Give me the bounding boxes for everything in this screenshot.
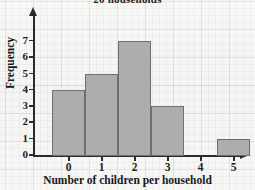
- x-tick-label-1: 1: [94, 162, 110, 174]
- y-tick-label-6: 6: [16, 51, 28, 62]
- bar-children-5: [217, 139, 250, 156]
- x-tick-label-2: 2: [127, 162, 143, 174]
- y-tick-mark: [29, 138, 34, 140]
- y-tick-label-5: 5: [16, 68, 28, 79]
- y-tick-label-0: 0: [16, 149, 28, 160]
- x-tick-label-5: 5: [226, 162, 242, 174]
- y-tick-mark: [29, 121, 34, 123]
- y-tick-mark: [29, 73, 34, 75]
- bar-children-1: [85, 74, 118, 157]
- bar-children-0: [52, 90, 85, 156]
- x-tick-label-4: 4: [193, 162, 209, 174]
- plot-area: 0 1 2 3 4 5 6 7 0 1 2 3 4 5 Frequency: [0, 0, 255, 190]
- y-tick-label-3: 3: [16, 100, 28, 111]
- y-tick-mark: [29, 89, 34, 91]
- bar-children-3: [151, 106, 184, 156]
- y-tick-label-4: 4: [16, 84, 28, 95]
- y-axis-line: [33, 14, 35, 156]
- y-tick-mark: [29, 154, 34, 156]
- y-tick-mark: [29, 56, 34, 58]
- y-tick-mark: [29, 40, 34, 42]
- y-tick-label-1: 1: [16, 133, 28, 144]
- y-axis-title: Frequency: [4, 25, 16, 101]
- x-axis-title: Number of children per household: [0, 174, 255, 186]
- y-tick-label-7: 7: [16, 35, 28, 46]
- x-tick-label-0: 0: [61, 162, 77, 174]
- histogram-screenshot: 20 households 0 1 2 3 4 5 6 7 0 1 2 3 4: [0, 0, 255, 190]
- x-tick-label-3: 3: [160, 162, 176, 174]
- y-axis-arrow-icon: [29, 7, 37, 16]
- y-tick-mark: [29, 105, 34, 107]
- bar-children-2: [118, 41, 151, 156]
- y-tick-label-2: 2: [16, 116, 28, 127]
